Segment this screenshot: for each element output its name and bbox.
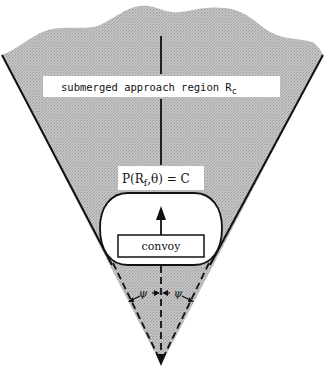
angle-right-label: ψ (174, 287, 183, 300)
probability-label: P(Rf,θ) = C (122, 172, 190, 188)
apex-arrow-head (156, 354, 166, 366)
approach-region-diagram: submerged approach region Rc P(Rf,θ) = C… (0, 0, 325, 372)
angle-left-label: ψ (139, 287, 148, 300)
convoy-label: convoy (142, 240, 182, 253)
